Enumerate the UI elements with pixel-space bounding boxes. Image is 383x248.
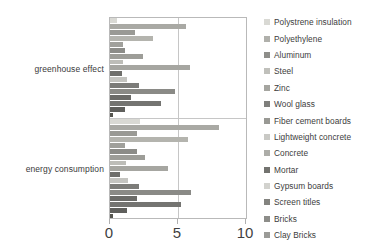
x-tick-label-10: 10 bbox=[237, 224, 254, 241]
bar-mortar bbox=[110, 172, 120, 177]
bar-screen-titles bbox=[110, 83, 139, 88]
legend-label: Gypsum boards bbox=[274, 181, 333, 191]
legend-label: Polyethylene bbox=[274, 34, 322, 44]
bar-group-greenhouse-effect bbox=[110, 18, 246, 118]
bar-polyethylene bbox=[110, 24, 186, 29]
legend-item-mortar[interactable]: Mortar bbox=[264, 162, 382, 178]
bar-concrete bbox=[110, 166, 168, 171]
legend-label: Screen titles bbox=[274, 197, 320, 207]
legend-swatch-icon bbox=[264, 150, 270, 156]
bar-group-energy-consumption bbox=[110, 119, 246, 219]
bar-tail-2 bbox=[110, 107, 125, 112]
bar-tail-3 bbox=[110, 113, 113, 118]
legend-item-clay-bricks[interactable]: Clay Bricks bbox=[264, 227, 382, 243]
y-axis-label-greenhouse-effect: greenhouse effect bbox=[4, 64, 104, 74]
x-tick-label-0: 0 bbox=[105, 224, 113, 241]
legend-item-wool-glass[interactable]: Wool glass bbox=[264, 96, 382, 112]
bar-bricks bbox=[110, 89, 175, 94]
legend-label: Clay Bricks bbox=[274, 230, 316, 240]
legend-label: Bricks bbox=[274, 214, 297, 224]
legend-swatch-icon bbox=[264, 52, 270, 58]
legend-item-aluminum[interactable]: Aluminum bbox=[264, 47, 382, 63]
legend-swatch-icon bbox=[264, 85, 270, 91]
legend-swatch-icon bbox=[264, 36, 270, 42]
bar-screen-titles bbox=[110, 184, 139, 189]
legend-swatch-icon bbox=[264, 232, 270, 238]
legend-label: Fiber cement boards bbox=[274, 116, 351, 126]
bar-aluminum bbox=[110, 131, 137, 136]
bar-mortar bbox=[110, 71, 122, 76]
bar-aluminum bbox=[110, 30, 135, 35]
bar-lightweight-concrete bbox=[110, 60, 123, 65]
bar-polyethylene bbox=[110, 125, 219, 130]
bar-tail-3 bbox=[110, 214, 113, 219]
plot-area bbox=[109, 17, 247, 219]
bar-polystrene-insulation bbox=[110, 18, 117, 23]
bar-fiber-cement-boards bbox=[110, 54, 143, 59]
bar-polystrene-insulation bbox=[110, 119, 140, 124]
legend-label: Steel bbox=[274, 66, 293, 76]
legend-item-polyethylene[interactable]: Polyethylene bbox=[264, 30, 382, 46]
legend-swatch-icon bbox=[264, 19, 270, 25]
legend-label: Mortar bbox=[274, 165, 298, 175]
legend-item-fiber-cement-boards[interactable]: Fiber cement boards bbox=[264, 112, 382, 128]
legend-swatch-icon bbox=[264, 183, 270, 189]
legend-swatch-icon bbox=[264, 167, 270, 173]
bar-wool-glass bbox=[110, 149, 137, 154]
bar-zinc bbox=[110, 143, 125, 148]
legend-label: Zinc bbox=[274, 83, 290, 93]
legend-label: Aluminum bbox=[274, 50, 311, 60]
legend-label: Wool glass bbox=[274, 99, 315, 109]
legend-item-steel[interactable]: Steel bbox=[264, 63, 382, 79]
bar-clay-bricks bbox=[110, 95, 131, 100]
bar-steel bbox=[110, 36, 153, 41]
bar-lightweight-concrete bbox=[110, 161, 126, 166]
x-tick-label-5: 5 bbox=[173, 224, 181, 241]
bar-chart: greenhouse effect energy consumption 0 5… bbox=[0, 0, 383, 248]
legend-item-concrete[interactable]: Concrete bbox=[264, 145, 382, 161]
bar-clay-bricks bbox=[110, 196, 137, 201]
y-axis-label-energy-consumption: energy consumption bbox=[4, 164, 104, 174]
legend-swatch-icon bbox=[264, 134, 270, 140]
bar-fiber-cement-boards bbox=[110, 155, 145, 160]
legend-item-polystrene-insulation[interactable]: Polystrene insulation bbox=[264, 14, 382, 30]
bar-tail-2 bbox=[110, 208, 127, 213]
legend-swatch-icon bbox=[264, 199, 270, 205]
bar-concrete bbox=[110, 65, 190, 70]
legend-swatch-icon bbox=[264, 216, 270, 222]
legend-label: Lightweight concrete bbox=[274, 132, 351, 142]
bar-wool-glass bbox=[110, 48, 125, 53]
bar-zinc bbox=[110, 42, 123, 47]
legend-item-gypsum-boards[interactable]: Gypsum boards bbox=[264, 178, 382, 194]
legend-swatch-icon bbox=[264, 68, 270, 74]
bar-gypsum-boards bbox=[110, 178, 128, 183]
bar-gypsum-boards bbox=[110, 77, 127, 82]
bar-tail-1 bbox=[110, 101, 161, 106]
chart-legend: Polystrene insulationPolyethyleneAluminu… bbox=[264, 14, 382, 243]
legend-item-bricks[interactable]: Bricks bbox=[264, 211, 382, 227]
legend-item-screen-titles[interactable]: Screen titles bbox=[264, 194, 382, 210]
legend-swatch-icon bbox=[264, 101, 270, 107]
legend-label: Polystrene insulation bbox=[274, 17, 352, 27]
legend-label: Concrete bbox=[274, 148, 308, 158]
legend-swatch-icon bbox=[264, 118, 270, 124]
legend-item-lightweight-concrete[interactable]: Lightweight concrete bbox=[264, 129, 382, 145]
bar-steel bbox=[110, 137, 188, 142]
bar-tail-1 bbox=[110, 202, 181, 207]
bar-bricks bbox=[110, 190, 191, 195]
legend-item-zinc[interactable]: Zinc bbox=[264, 80, 382, 96]
